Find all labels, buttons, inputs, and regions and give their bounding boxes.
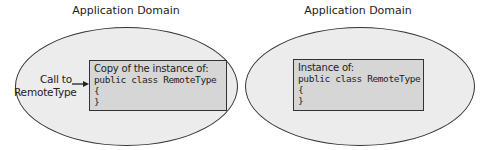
box-header: Copy of the instance of: bbox=[94, 63, 222, 74]
instance-box: Instance of: public class RemoteType { } bbox=[293, 59, 424, 111]
code-line: public class RemoteType bbox=[94, 74, 222, 85]
code-line: } bbox=[298, 95, 419, 106]
code-line: { bbox=[94, 85, 222, 96]
code-line: public class RemoteType bbox=[298, 73, 419, 84]
call-label-line1: Call to bbox=[14, 73, 72, 86]
right-domain-title: Application Domain bbox=[258, 4, 458, 17]
code-line: } bbox=[94, 96, 222, 107]
left-domain-title: Application Domain bbox=[26, 4, 226, 17]
arrow-icon bbox=[72, 80, 90, 88]
code-line: { bbox=[298, 84, 419, 95]
call-label: Call to RemoteType bbox=[14, 73, 72, 99]
copy-instance-box: Copy of the instance of: public class Re… bbox=[89, 60, 227, 111]
call-label-line2: RemoteType bbox=[14, 86, 72, 99]
box-header: Instance of: bbox=[298, 62, 419, 73]
